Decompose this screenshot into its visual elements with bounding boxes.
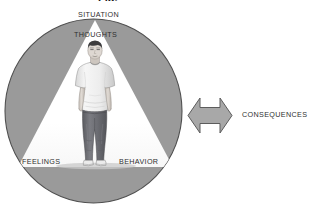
- right-shoe: [96, 160, 106, 166]
- figure-canvas: Fig.: [0, 0, 318, 215]
- cbt-diagram-graphic: [0, 0, 318, 215]
- label-consequences: CONSEQUENCES: [242, 111, 307, 118]
- label-situation: SITUATION: [78, 11, 119, 18]
- left-shoe: [83, 160, 93, 166]
- double-headed-arrow: [188, 98, 232, 133]
- label-behavior: BEHAVIOR: [119, 158, 158, 165]
- label-thoughts: THOUGHTS: [74, 31, 117, 38]
- label-feelings: FEELINGS: [22, 158, 60, 165]
